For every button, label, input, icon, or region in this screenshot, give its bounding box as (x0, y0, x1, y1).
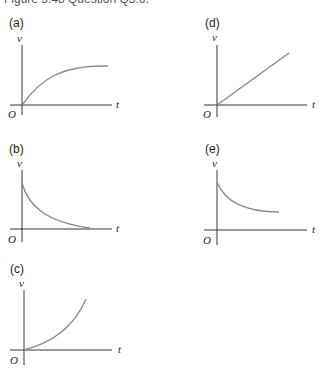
v-label: v (212, 157, 217, 169)
v-label: v (212, 31, 217, 43)
graph-c: v t O (0, 280, 160, 369)
t-label: t (312, 223, 316, 235)
origin-label: O (8, 108, 16, 120)
origin-label: O (203, 108, 211, 120)
graph-d: v t O (190, 35, 320, 130)
panel-label-d: (d) (205, 16, 220, 30)
velocity-curve (22, 66, 108, 105)
panel-label-e: (e) (205, 142, 220, 156)
panel-label-c: (c) (10, 262, 24, 276)
panel-label-a: (a) (9, 16, 24, 30)
t-label: t (118, 343, 122, 355)
origin-label: O (10, 354, 18, 366)
graph-a: v t O (0, 35, 160, 130)
velocity-curve (22, 183, 90, 228)
origin-label: O (203, 234, 211, 246)
graph-e: v t O (190, 160, 320, 255)
velocity-curve (217, 182, 279, 212)
t-label: t (116, 98, 120, 110)
panel-label-b: (b) (9, 142, 24, 156)
v-label: v (19, 277, 24, 289)
v-label: v (17, 157, 22, 169)
velocity-line (217, 53, 289, 105)
figure-caption: Figure 5.48 Question Q5.6. (4, 0, 149, 6)
t-label: t (116, 222, 120, 234)
v-label: v (17, 32, 22, 44)
origin-label: O (8, 233, 16, 245)
velocity-curve (24, 299, 86, 350)
graph-b: v t O (0, 160, 160, 255)
t-label: t (312, 98, 316, 110)
